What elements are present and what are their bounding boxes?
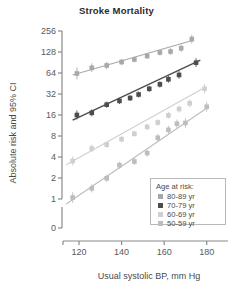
legend-swatch-icon	[158, 203, 163, 208]
data-point	[70, 195, 75, 200]
y-tick-label: 64	[46, 68, 56, 78]
stroke-mortality-figure: Stroke Mortality 01248163264128256120140…	[0, 0, 233, 295]
data-point	[136, 92, 141, 97]
data-point	[158, 82, 163, 87]
data-point	[177, 73, 182, 78]
legend-swatch-icon	[158, 221, 163, 226]
data-point	[204, 104, 209, 109]
legend-swatch-icon	[158, 212, 163, 217]
data-point	[145, 151, 150, 156]
legend-swatch-icon	[158, 194, 163, 199]
y-tick-label: 128	[41, 47, 56, 57]
x-axis-title: Usual systolic BP, mm Hg	[98, 271, 200, 281]
legend: Age at risk: 80-89 yr70-79 yr60-69 yr50-…	[150, 178, 226, 225]
data-point	[104, 142, 109, 147]
y-axis-title: Absolute risk and 95% CI	[8, 82, 18, 183]
x-tick-label: 120	[72, 247, 87, 257]
y-tick-label: 256	[41, 26, 56, 36]
data-point	[202, 86, 207, 91]
data-point	[117, 99, 122, 104]
data-point	[119, 60, 124, 65]
data-point	[155, 135, 160, 140]
y-tick-label: 16	[46, 110, 56, 120]
x-tick-label: 140	[114, 247, 129, 257]
y-tick-label: 32	[46, 89, 56, 99]
data-point	[158, 50, 163, 55]
y-tick-label: 0	[51, 223, 56, 233]
data-point	[145, 54, 150, 59]
data-point	[89, 146, 94, 151]
data-point	[147, 86, 152, 91]
data-point	[183, 121, 188, 126]
data-point	[119, 137, 124, 142]
legend-title: Age at risk:	[156, 182, 221, 191]
y-tick-label: 2	[51, 173, 56, 183]
data-point	[145, 125, 150, 130]
scatter-plot: 01248163264128256120140160180 Usual syst…	[0, 0, 233, 295]
x-tick-label: 180	[199, 247, 214, 257]
data-point	[166, 128, 171, 133]
legend-entry-label: 80-89 yr	[167, 192, 195, 201]
data-point	[179, 46, 184, 51]
data-point	[132, 57, 137, 62]
data-point	[187, 101, 192, 106]
data-point	[175, 121, 180, 126]
data-point	[194, 60, 199, 65]
legend-entry-label: 50-59 yr	[167, 219, 195, 228]
data-point	[166, 113, 171, 118]
legend-entry: 50-59 yr	[156, 219, 221, 228]
y-tick-label: 8	[51, 131, 56, 141]
data-point	[132, 159, 137, 164]
data-point	[89, 65, 94, 70]
legend-entries: 80-89 yr70-79 yr60-69 yr50-59 yr	[156, 192, 221, 228]
data-point	[166, 77, 171, 82]
series-80-89-yr	[73, 35, 194, 80]
data-point	[104, 63, 109, 68]
data-point	[128, 96, 133, 101]
x-tick-label: 160	[157, 247, 172, 257]
data-point	[117, 163, 122, 168]
y-tick-label: 1	[51, 194, 56, 204]
legend-entry-label: 70-79 yr	[167, 201, 195, 210]
legend-entry-label: 60-69 yr	[167, 210, 195, 219]
data-point	[75, 71, 80, 76]
legend-entry: 60-69 yr	[156, 210, 221, 219]
data-point	[75, 113, 80, 118]
y-tick-label: 4	[51, 152, 56, 162]
data-point	[155, 120, 160, 125]
legend-entry: 80-89 yr	[156, 192, 221, 201]
data-point	[89, 111, 94, 116]
data-point	[132, 132, 137, 137]
data-point	[104, 102, 109, 107]
data-point	[104, 176, 109, 181]
data-point	[168, 49, 173, 54]
legend-entry: 70-79 yr	[156, 201, 221, 210]
data-point	[89, 186, 94, 191]
data-point	[70, 159, 75, 164]
data-point	[190, 37, 195, 42]
data-point	[177, 107, 182, 112]
